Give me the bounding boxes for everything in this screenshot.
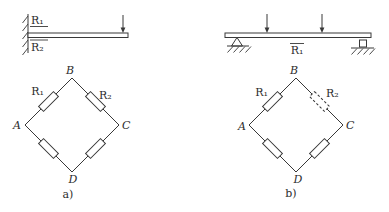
resistor-lower-right [310,139,330,159]
bridge-b-node-b: B [289,64,298,77]
gauge-top-label: R₁ [31,14,44,27]
bridge-a: R₁ R₂ B A C D a) [12,64,131,201]
panel-b-beam: R₁ [225,14,375,57]
gauge-bottom-label: R₂ [31,41,44,54]
load-arrow-2 [320,14,325,33]
load-arrow-1 [265,14,270,33]
beam-gauge-label: R₁ [291,44,304,57]
pin-support [227,38,251,53]
panel-b-caption: b) [285,187,296,200]
panel-a-beam: R₁ R₂ [23,14,129,55]
bridge-b-node-c: C [346,119,355,132]
resistor-lower-right [86,139,106,159]
bridge-a-r2-label: R₂ [99,89,112,102]
bridge-b-node-a: A [237,120,246,133]
simply-supported-beam [225,33,371,38]
panel-a-caption: a) [63,188,74,201]
bridge-b-r2-label: R₂ [326,87,339,100]
bridge-a-node-a: A [12,119,21,132]
roller-support [351,40,375,55]
bridge-a-node-b: B [65,64,74,77]
bridge-b-node-d: D [293,173,303,186]
bridge-a-node-c: C [122,119,131,132]
bridge-b: R₁ R₂ B A C D b) [237,64,355,200]
load-arrow [121,15,126,33]
wall-hatching [23,16,29,55]
pin-support-hatching [228,47,252,53]
roller-support-hatching [352,49,376,55]
bridge-b-r1-label: R₁ [255,86,268,99]
figure-canvas: R₁ R₂ [0,0,389,212]
strain-gauge-bridge-figure: R₁ R₂ [0,0,389,212]
cantilever-beam [28,33,128,38]
resistor-lower-left [39,139,59,159]
bridge-a-node-d: D [68,173,78,186]
resistor-lower-left [263,139,283,159]
bridge-a-r1-label: R₁ [31,85,44,98]
